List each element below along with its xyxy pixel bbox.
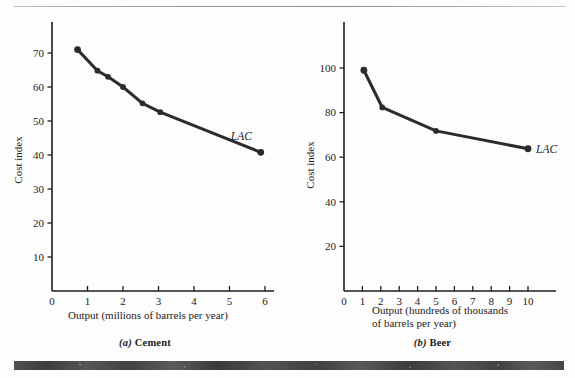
data-point-marker [74, 46, 81, 53]
y-tick-label: 20 [33, 217, 45, 229]
scan-artifact-bar [14, 361, 564, 370]
data-point-marker [433, 128, 439, 134]
data-point-marker [95, 68, 101, 74]
x-tick-label: 0 [341, 295, 347, 307]
y-tick-label: 60 [33, 81, 45, 93]
caption-letter-b: (b) [414, 337, 427, 348]
y-tick-label: 80 [325, 106, 337, 118]
y-tick-label: 40 [33, 149, 45, 161]
x-tick-label: 4 [191, 295, 197, 307]
x-tick-label: 5 [227, 295, 233, 307]
y-tick-label: 60 [325, 151, 337, 163]
y-axis-title: Cost index [12, 136, 24, 184]
y-tick-label: 70 [33, 47, 45, 59]
y-tick-label: 30 [33, 183, 45, 195]
caption-text-cement: Cement [135, 337, 171, 348]
caption-cement: (a) Cement [0, 337, 290, 348]
y-tick-label: 100 [320, 62, 337, 74]
lac-curve-label: LAC [230, 130, 252, 142]
caption-letter-a: (a) [119, 337, 132, 348]
x-tick-label: 2 [120, 295, 126, 307]
x-tick-label: 1 [85, 295, 91, 307]
x-tick-label: 6 [262, 295, 268, 307]
y-tick-label: 20 [325, 240, 337, 252]
x-tick-label: 1 [360, 295, 366, 307]
data-point-marker [525, 145, 532, 152]
cement-chart-svg: 102030405060700123456LACCost indexOutput… [0, 0, 290, 330]
data-point-marker [360, 67, 367, 74]
y-tick-label: 50 [33, 115, 45, 127]
x-axis-title: Output (millions of barrels per year) [68, 309, 228, 322]
x-tick-label: 10 [523, 295, 535, 307]
data-point-marker [379, 105, 385, 111]
x-tick-label: 0 [49, 295, 55, 307]
figure-page: 102030405060700123456LACCost indexOutput… [0, 0, 575, 378]
x-tick-label: 3 [156, 295, 162, 307]
x-axis-title-line2: of barrels per year) [372, 317, 456, 330]
beer-chart-svg: 20406080100012345678910LACCost indexOutp… [290, 0, 575, 330]
caption-beer: (b) Beer [290, 337, 575, 348]
data-point-marker [157, 109, 163, 115]
data-point-marker [140, 100, 146, 106]
y-axis-title: Cost index [304, 141, 316, 189]
chart-panel-cement: 102030405060700123456LACCost indexOutput… [0, 0, 290, 355]
y-tick-label: 10 [33, 251, 45, 263]
y-tick-label: 40 [325, 196, 337, 208]
data-point-marker [120, 84, 126, 90]
caption-text-beer: Beer [429, 337, 451, 348]
data-point-marker [257, 149, 264, 156]
data-point-marker [105, 74, 111, 80]
lac-curve [364, 70, 528, 148]
x-axis-title-line1: Output (hundreds of thousands [372, 304, 508, 317]
lac-curve-label: LAC [535, 143, 557, 155]
chart-panel-beer: 20406080100012345678910LACCost indexOutp… [290, 0, 575, 355]
